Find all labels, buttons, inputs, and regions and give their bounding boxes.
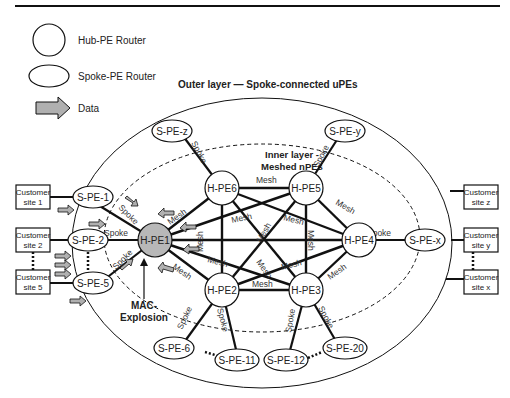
- svg-text:S-PE-z: S-PE-z: [156, 126, 188, 137]
- svg-text:Customer: Customer: [464, 231, 499, 240]
- svg-text:H-PE4: H-PE4: [344, 235, 374, 246]
- spoke-nodes: S-PE-1 S-PE-2 S-PE-5 S-PE-z S-PE-y S-PE-…: [68, 120, 445, 371]
- hub-h-pe4[interactable]: H-PE4: [342, 223, 376, 257]
- customer-site-1[interactable]: Customer site 1: [16, 185, 51, 209]
- svg-text:Customer: Customer: [16, 188, 51, 197]
- svg-text:Customer: Customer: [16, 231, 51, 240]
- spoke-s-pe-12[interactable]: S-PE-12: [264, 349, 308, 371]
- legend-spoke-label: Spoke-PE Router: [78, 71, 156, 82]
- hub-h-pe1[interactable]: H-PE1: [138, 223, 172, 257]
- svg-text:Customer: Customer: [16, 273, 51, 282]
- svg-text:site 5: site 5: [23, 283, 43, 292]
- spoke-legend-icon: [29, 65, 69, 87]
- svg-text:Customer: Customer: [464, 188, 499, 197]
- customer-site-z[interactable]: Customer site z: [464, 185, 499, 209]
- spoke-s-pe-x[interactable]: S-PE-x: [405, 229, 445, 251]
- spoke-s-pe-z[interactable]: S-PE-z: [152, 120, 192, 142]
- mac-explosion-label-2: Explosion: [120, 312, 168, 323]
- data-arrow-icon: [70, 296, 86, 306]
- spoke-label: Spoke: [215, 307, 231, 333]
- mesh-label: Mesh: [256, 175, 277, 185]
- svg-text:site z: site z: [472, 198, 491, 207]
- customer-site-y[interactable]: Customer site y: [464, 228, 499, 252]
- mac-pointer-arrowhead-icon: [140, 258, 148, 266]
- mesh-label: Mesh: [171, 261, 194, 281]
- svg-text:S-PE-1: S-PE-1: [77, 192, 110, 203]
- spoke-s-pe-1[interactable]: S-PE-1: [73, 186, 113, 208]
- svg-text:H-PE1: H-PE1: [140, 235, 170, 246]
- inner-layer-title-1: Inner layer -: [265, 149, 319, 160]
- outer-layer-title: Outer layer — Spoke-connected uPEs: [178, 79, 358, 90]
- mesh-label: Mesh: [334, 197, 357, 216]
- spoke-s-pe-20[interactable]: S-PE-20: [323, 337, 367, 359]
- spoke-label: Spoke: [316, 304, 336, 330]
- vpls-hierarchy-diagram: Hub-PE Router Spoke-PE Router Data Outer…: [0, 0, 510, 398]
- svg-text:S-PE-5: S-PE-5: [77, 278, 110, 289]
- data-arrow-icon: [158, 262, 174, 273]
- mac-explosion-label-1: MAC-: [131, 300, 157, 311]
- svg-text:S-PE-2: S-PE-2: [72, 235, 105, 246]
- mesh-label: Mesh: [306, 230, 316, 251]
- spoke-s-pe-11[interactable]: S-PE-11: [215, 349, 259, 371]
- spoke-label: Spoke: [189, 139, 209, 165]
- svg-text:S-PE-20: S-PE-20: [326, 343, 364, 354]
- data-arrow-icon: [55, 251, 71, 261]
- svg-text:S-PE-11: S-PE-11: [218, 355, 255, 366]
- mesh-label: Mesh: [252, 279, 273, 289]
- spoke-s-pe-5[interactable]: S-PE-5: [73, 272, 113, 294]
- customer-site-2[interactable]: Customer site 2: [16, 228, 51, 252]
- legend: Hub-PE Router Spoke-PE Router Data: [29, 24, 156, 119]
- data-arrow-icon: [55, 269, 71, 279]
- svg-text:site 1: site 1: [23, 198, 43, 207]
- svg-text:S-PE-x: S-PE-x: [409, 235, 441, 246]
- svg-text:H-PE5: H-PE5: [291, 183, 321, 194]
- spoke-s-pe-2[interactable]: S-PE-2: [68, 229, 108, 251]
- svg-text:H-PE6: H-PE6: [207, 183, 237, 194]
- spoke-label: Spoke: [175, 305, 194, 331]
- data-arrow-icon: [58, 205, 74, 215]
- hub-legend-icon: [33, 24, 65, 56]
- svg-text:site 2: site 2: [23, 241, 43, 250]
- customer-site-x[interactable]: Customer site x: [464, 270, 499, 294]
- hub-h-pe2[interactable]: H-PE2: [205, 273, 239, 307]
- svg-text:site x: site x: [472, 283, 491, 292]
- data-arrow-icon: [89, 219, 105, 229]
- dotted-connectors: [33, 248, 473, 358]
- data-arrow-legend-icon: [36, 97, 70, 119]
- hub-h-pe6[interactable]: H-PE6: [205, 171, 239, 205]
- mesh-label: Mesh: [207, 254, 230, 269]
- svg-text:H-PE2: H-PE2: [207, 285, 237, 296]
- hub-h-pe3[interactable]: H-PE3: [289, 273, 323, 307]
- mesh-label: Mesh: [325, 261, 348, 281]
- svg-text:S-PE-12: S-PE-12: [267, 355, 305, 366]
- mesh-label: Mesh: [283, 212, 306, 227]
- mesh-label: Mesh: [280, 257, 303, 272]
- legend-data-label: Data: [78, 103, 100, 114]
- legend-hub-label: Hub-PE Router: [78, 35, 146, 46]
- svg-text:S-PE-y: S-PE-y: [329, 126, 361, 137]
- svg-text:site y: site y: [472, 241, 491, 250]
- svg-text:Customer: Customer: [464, 273, 499, 282]
- spoke-s-pe-6[interactable]: S-PE-6: [154, 337, 194, 359]
- data-arrow-icon: [55, 260, 71, 270]
- hub-h-pe5[interactable]: H-PE5: [289, 171, 323, 205]
- svg-text:H-PE3: H-PE3: [291, 285, 321, 296]
- svg-text:S-PE-6: S-PE-6: [158, 343, 191, 354]
- spoke-s-pe-y[interactable]: S-PE-y: [325, 120, 365, 142]
- customer-site-5[interactable]: Customer site 5: [16, 270, 51, 294]
